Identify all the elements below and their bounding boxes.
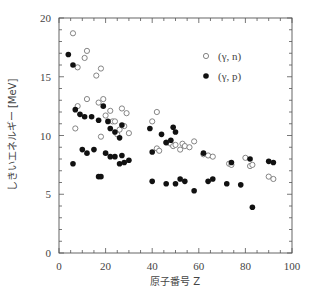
y-tick-label: 10 — [40, 130, 52, 142]
data-point-gamma-p — [247, 156, 253, 162]
data-point-gamma-n — [126, 131, 131, 136]
x-tick-labels: 020406080100 — [56, 260, 301, 272]
data-point-gamma-p — [224, 181, 230, 187]
data-point-gamma-p — [91, 147, 97, 153]
data-point-gamma-n — [108, 108, 113, 113]
data-point-gamma-p — [173, 129, 179, 135]
data-point-gamma-p — [66, 52, 72, 58]
data-point-gamma-p — [210, 176, 216, 182]
legend-label-gamma-n: (γ, n) — [218, 50, 242, 63]
data-point-gamma-p — [112, 129, 118, 135]
data-point-gamma-p — [98, 174, 104, 180]
y-tick-label: 5 — [46, 188, 52, 200]
data-point-gamma-p — [73, 107, 79, 113]
y-tick-labels: 05101520 — [40, 12, 52, 259]
data-point-gamma-p — [271, 160, 277, 166]
x-tick-label: 40 — [147, 260, 159, 272]
data-point-gamma-n — [98, 134, 103, 139]
y-tick-label: 20 — [40, 12, 52, 24]
data-point-gamma-n — [82, 55, 87, 60]
data-point-gamma-n — [124, 111, 129, 116]
data-point-gamma-n — [119, 106, 124, 111]
legend-label-gamma-p: (γ, p) — [218, 70, 242, 83]
data-point-gamma-p — [103, 150, 109, 156]
axis-ticks — [59, 18, 292, 253]
data-point-gamma-p — [147, 126, 153, 132]
data-point-gamma-n — [157, 148, 162, 153]
data-point-gamma-n — [96, 100, 101, 105]
x-tick-label: 80 — [240, 260, 252, 272]
data-point-gamma-p — [84, 150, 90, 156]
data-point-gamma-p — [250, 204, 256, 210]
data-point-gamma-n — [84, 96, 89, 101]
data-point-gamma-p — [163, 181, 169, 187]
data-point-gamma-p — [182, 179, 188, 185]
data-point-gamma-p — [159, 132, 165, 138]
data-point-gamma-p — [119, 153, 125, 159]
plot-area-border — [59, 18, 292, 253]
data-point-gamma-n — [117, 127, 122, 132]
data-point-gamma-p — [107, 126, 113, 132]
data-point-gamma-p — [117, 161, 123, 167]
data-point-gamma-p — [149, 149, 155, 155]
scatter-chart: 020406080100 05101520 (γ, n) (γ, p) 原子番号… — [0, 0, 309, 298]
data-point-gamma-n — [250, 162, 255, 167]
data-point-gamma-p — [82, 114, 88, 120]
data-point-gamma-n — [73, 126, 78, 131]
legend-open-circle-icon — [203, 53, 208, 58]
data-point-gamma-n — [210, 154, 215, 159]
data-point-gamma-p — [149, 179, 155, 185]
data-point-gamma-p — [238, 182, 244, 188]
legend: (γ, n) (γ, p) — [203, 50, 241, 83]
data-point-gamma-n — [70, 31, 75, 36]
data-point-gamma-n — [94, 73, 99, 78]
data-point-gamma-n — [187, 145, 192, 150]
data-point-gamma-p — [112, 154, 118, 160]
x-tick-label: 0 — [56, 260, 62, 272]
data-point-gamma-p — [266, 159, 272, 165]
data-point-gamma-p — [96, 117, 102, 123]
y-tick-label: 15 — [40, 71, 52, 83]
data-point-gamma-n — [103, 113, 108, 118]
data-point-gamma-p — [173, 181, 179, 187]
data-point-gamma-p — [119, 122, 125, 128]
data-point-gamma-n — [173, 142, 178, 147]
data-point-gamma-p — [117, 135, 123, 141]
data-point-gamma-n — [243, 155, 248, 160]
data-point-gamma-p — [229, 160, 235, 166]
data-point-gamma-n — [150, 119, 155, 124]
x-tick-label: 20 — [100, 260, 112, 272]
data-point-gamma-n — [192, 139, 197, 144]
data-point-gamma-n — [84, 48, 89, 53]
data-point-gamma-p — [70, 62, 76, 68]
data-point-gamma-p — [126, 157, 132, 163]
data-point-gamma-n — [154, 109, 159, 114]
data-point-gamma-p — [80, 147, 86, 153]
data-point-gamma-n — [178, 147, 183, 152]
data-point-gamma-p — [70, 161, 76, 167]
data-point-gamma-p — [191, 188, 197, 194]
data-point-gamma-n — [75, 65, 80, 70]
y-axis-label: しきいエネルギー [MeV] — [7, 79, 18, 192]
data-point-gamma-n — [112, 119, 117, 124]
data-point-gamma-p — [100, 103, 106, 109]
x-axis-label: 原子番号 Z — [150, 276, 200, 287]
data-point-gamma-p — [168, 137, 174, 143]
x-tick-label: 60 — [193, 260, 205, 272]
y-tick-label: 0 — [46, 247, 52, 259]
data-point-gamma-n — [98, 66, 103, 71]
data-point-gamma-p — [201, 150, 207, 156]
legend-filled-circle-icon — [203, 73, 209, 79]
data-point-gamma-n — [101, 96, 106, 101]
data-point-gamma-p — [105, 119, 111, 125]
x-tick-label: 100 — [284, 260, 301, 272]
data-point-gamma-n — [271, 176, 276, 181]
data-point-gamma-p — [89, 114, 95, 120]
plot-frame — [59, 18, 292, 253]
